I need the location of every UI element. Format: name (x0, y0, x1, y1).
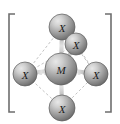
sphere-ligand-right[interactable] (84, 62, 108, 86)
atom-metal-center[interactable]: M (45, 53, 77, 85)
structure-figure: X X X X M X (0, 0, 120, 124)
atom-ligand-bottom[interactable]: X (49, 95, 75, 121)
sphere-ligand-back-right[interactable] (65, 33, 87, 55)
sphere-metal-center[interactable] (45, 53, 77, 85)
atom-ligand-left[interactable]: X (13, 62, 37, 86)
sphere-ligand-left[interactable] (13, 62, 37, 86)
atom-ligand-back-right[interactable]: X (65, 33, 87, 55)
sphere-ligand-bottom[interactable] (49, 95, 75, 121)
molecule-canvas: X X X X M X (0, 0, 120, 124)
right-square-bracket-icon (105, 14, 111, 112)
left-square-bracket-icon (9, 14, 15, 112)
atom-ligand-right[interactable]: X (84, 62, 108, 86)
